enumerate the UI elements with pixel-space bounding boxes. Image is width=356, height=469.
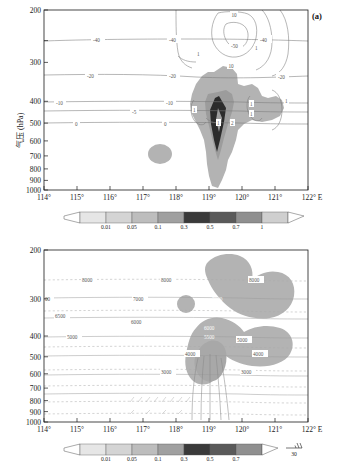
panel-b-x-tick-labels: 114° 115° 116° 117° 118° 119° 120° 121° … bbox=[37, 425, 323, 434]
panel-a-plot: -40 -40 -40 -50 -20 -20 -20 -10 bbox=[0, 0, 356, 240]
svg-text:121°: 121° bbox=[268, 193, 282, 202]
svg-text:400: 400 bbox=[30, 97, 42, 106]
svg-text:1: 1 bbox=[197, 51, 200, 57]
svg-text:118°: 118° bbox=[169, 193, 183, 202]
svg-text:10: 10 bbox=[229, 63, 235, 69]
svg-text:8000: 8000 bbox=[249, 277, 260, 283]
svg-text:0.5: 0.5 bbox=[207, 456, 214, 462]
svg-text:-10: -10 bbox=[166, 100, 173, 106]
svg-text:800: 800 bbox=[30, 397, 42, 406]
svg-text:-20: -20 bbox=[169, 73, 176, 79]
svg-text:0: 0 bbox=[164, 121, 167, 127]
svg-text:0.5: 0.5 bbox=[207, 224, 214, 230]
figure-root: 气压 (hPa) (a) bbox=[0, 0, 356, 469]
panel-a-y-axis-label: 气压 (hPa) bbox=[14, 113, 25, 148]
svg-text:5000: 5000 bbox=[237, 337, 248, 343]
svg-text:2: 2 bbox=[231, 120, 234, 126]
svg-text:1: 1 bbox=[261, 224, 264, 230]
panel-b-y-tick-labels: 200 300 400 500 600 700 800 900 1000 bbox=[26, 246, 41, 427]
svg-text:10: 10 bbox=[232, 12, 238, 18]
svg-text:0.7: 0.7 bbox=[233, 456, 240, 462]
svg-text:0.05: 0.05 bbox=[127, 456, 137, 462]
svg-text:117°: 117° bbox=[136, 193, 150, 202]
svg-text:6000: 6000 bbox=[240, 319, 251, 325]
svg-text:600: 600 bbox=[30, 370, 42, 379]
svg-text:-50: -50 bbox=[231, 43, 238, 49]
svg-text:7000: 7000 bbox=[133, 296, 144, 302]
svg-text:30: 30 bbox=[291, 451, 297, 457]
svg-text:3000: 3000 bbox=[241, 369, 252, 375]
svg-text:118°: 118° bbox=[169, 425, 183, 434]
shade-region-secondary bbox=[148, 144, 172, 164]
svg-text:122° E: 122° E bbox=[302, 193, 323, 202]
svg-text:8000: 8000 bbox=[82, 277, 93, 283]
svg-text:6500: 6500 bbox=[55, 313, 66, 319]
svg-text:0: 0 bbox=[75, 121, 78, 127]
svg-text:0.1: 0.1 bbox=[155, 224, 162, 230]
svg-text:300: 300 bbox=[30, 295, 42, 304]
panel-a-tag: (a) bbox=[312, 11, 322, 21]
svg-text:7000: 7000 bbox=[212, 296, 223, 302]
svg-text:-40: -40 bbox=[93, 37, 100, 43]
svg-text:0.01: 0.01 bbox=[101, 224, 111, 230]
svg-text:0.1: 0.1 bbox=[155, 456, 162, 462]
svg-text:8000: 8000 bbox=[161, 277, 172, 283]
svg-text:0.3: 0.3 bbox=[181, 224, 188, 230]
svg-text:0.3: 0.3 bbox=[181, 456, 188, 462]
svg-text:122° E: 122° E bbox=[302, 425, 323, 434]
panel-a-y-tick-labels: 200 300 400 500 600 700 800 900 1000 bbox=[26, 6, 41, 195]
svg-text:-20: -20 bbox=[278, 74, 285, 80]
svg-text:116°: 116° bbox=[103, 193, 117, 202]
panel-a-colorbar: 0.01 0.05 0.1 0.3 0.5 0.7 1 bbox=[64, 212, 304, 230]
svg-text:-40: -40 bbox=[169, 37, 176, 43]
svg-text:800: 800 bbox=[30, 165, 42, 174]
svg-text:119°: 119° bbox=[202, 193, 216, 202]
svg-text:200: 200 bbox=[30, 6, 42, 15]
svg-text:0.7: 0.7 bbox=[233, 224, 240, 230]
svg-text:121°: 121° bbox=[268, 425, 282, 434]
svg-text:400: 400 bbox=[30, 332, 42, 341]
svg-text:1: 1 bbox=[250, 111, 253, 117]
svg-text:200: 200 bbox=[30, 246, 42, 255]
svg-text:4000: 4000 bbox=[185, 351, 196, 357]
svg-text:-40: -40 bbox=[260, 37, 267, 43]
svg-text:300: 300 bbox=[30, 58, 42, 67]
panel-b-plot: 8000 8000 8000 00 7000 7000 6500 6500 60… bbox=[0, 240, 356, 469]
panel-b-barb-scale: 30 bbox=[286, 443, 302, 457]
svg-text:900: 900 bbox=[30, 176, 42, 185]
svg-text:500: 500 bbox=[30, 353, 42, 362]
svg-text:6500: 6500 bbox=[204, 310, 215, 316]
panel-b-colorbar: 0.01 0.05 0.1 0.3 0.5 0.7 bbox=[64, 444, 278, 462]
panel-a: 气压 (hPa) (a) bbox=[0, 0, 356, 240]
svg-text:1: 1 bbox=[193, 107, 196, 113]
svg-text:1: 1 bbox=[255, 45, 258, 51]
svg-text:115°: 115° bbox=[70, 193, 84, 202]
svg-text:6000: 6000 bbox=[204, 325, 215, 331]
svg-text:600: 600 bbox=[30, 137, 42, 146]
panel-b: 气压 (hPa) (b) bbox=[0, 240, 356, 469]
svg-text:114°: 114° bbox=[37, 193, 51, 202]
svg-text:120°: 120° bbox=[235, 193, 249, 202]
svg-text:1: 1 bbox=[285, 98, 288, 104]
svg-text:5000: 5000 bbox=[67, 334, 78, 340]
svg-text:-20: -20 bbox=[87, 73, 94, 79]
svg-text:117°: 117° bbox=[136, 425, 150, 434]
svg-text:5500: 5500 bbox=[204, 334, 215, 340]
svg-text:4000: 4000 bbox=[253, 351, 264, 357]
svg-text:0.01: 0.01 bbox=[101, 456, 111, 462]
svg-text:0.05: 0.05 bbox=[127, 224, 137, 230]
svg-text:700: 700 bbox=[30, 384, 42, 393]
svg-text:116°: 116° bbox=[103, 425, 117, 434]
svg-text:120°: 120° bbox=[235, 425, 249, 434]
svg-text:114°: 114° bbox=[37, 425, 51, 434]
svg-text:500: 500 bbox=[30, 119, 42, 128]
svg-text:700: 700 bbox=[30, 152, 42, 161]
svg-text:119°: 119° bbox=[202, 425, 216, 434]
svg-text:1: 1 bbox=[250, 101, 253, 107]
svg-text:1: 1 bbox=[217, 120, 220, 126]
svg-text:3000: 3000 bbox=[161, 369, 172, 375]
svg-text:6000: 6000 bbox=[131, 319, 142, 325]
svg-text:115°: 115° bbox=[70, 425, 84, 434]
svg-text:-5: -5 bbox=[132, 109, 137, 115]
panel-a-x-tick-labels: 114° 115° 116° 117° 118° 119° 120° 121° … bbox=[37, 193, 323, 202]
